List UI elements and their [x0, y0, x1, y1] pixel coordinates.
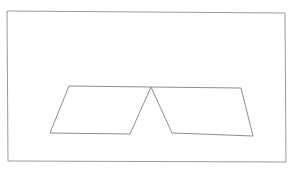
diagram-canvas: [0, 0, 290, 172]
line-diagram: [0, 0, 290, 172]
diagram-background: [0, 0, 290, 172]
